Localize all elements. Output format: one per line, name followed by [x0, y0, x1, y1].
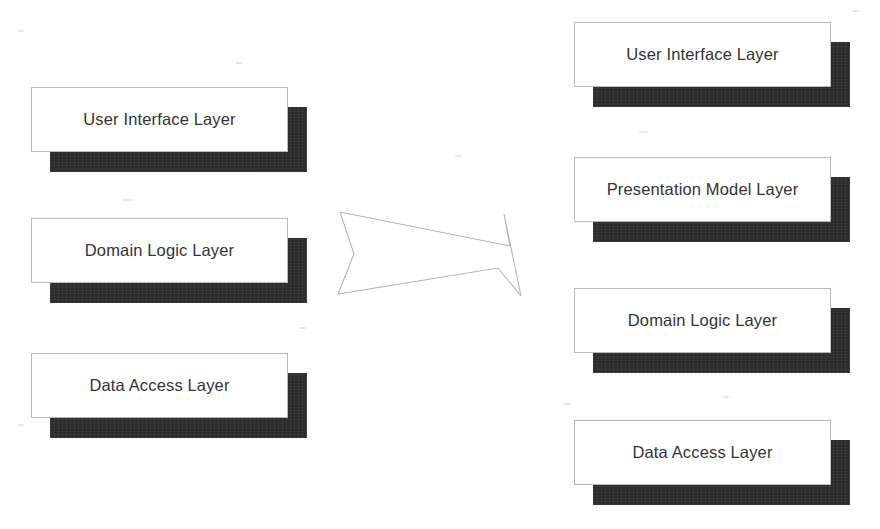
scan-speckle	[299, 327, 306, 329]
layer-box-face[interactable]: User Interface Layer	[31, 87, 288, 152]
arrow-right-outline-icon	[332, 202, 532, 306]
layer-box-face[interactable]: Data Access Layer	[31, 353, 288, 418]
scan-speckle	[852, 10, 859, 12]
scan-speckle	[18, 424, 24, 426]
layer-box-face[interactable]: Data Access Layer	[574, 420, 831, 485]
layer-box-label: Domain Logic Layer	[85, 242, 234, 259]
scan-speckle	[122, 199, 131, 201]
layer-box-face[interactable]: User Interface Layer	[574, 22, 831, 87]
scan-speckle	[18, 30, 24, 32]
layer-box-face[interactable]: Domain Logic Layer	[574, 288, 831, 353]
diagram-canvas: User Interface Layer Domain Logic Layer …	[0, 0, 880, 529]
layer-box-face[interactable]: Domain Logic Layer	[31, 218, 288, 283]
layer-box-label: User Interface Layer	[83, 111, 235, 128]
scan-speckle	[455, 155, 461, 157]
arrow-outline-path	[338, 212, 521, 296]
scan-speckle	[236, 62, 243, 64]
scan-speckle	[723, 396, 729, 398]
scan-speckle	[564, 403, 571, 405]
layer-box-label: Domain Logic Layer	[628, 312, 777, 329]
transform-arrow	[332, 202, 532, 306]
layer-box-label: Presentation Model Layer	[607, 181, 799, 198]
scan-speckle	[639, 131, 647, 133]
layer-box-label: User Interface Layer	[626, 46, 778, 63]
layer-box-label: Data Access Layer	[632, 444, 772, 461]
layer-box-face[interactable]: Presentation Model Layer	[574, 157, 831, 222]
layer-box-label: Data Access Layer	[89, 377, 229, 394]
